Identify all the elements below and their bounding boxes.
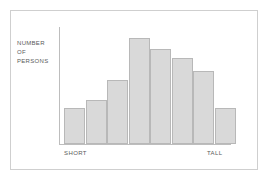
bar-5 bbox=[150, 49, 171, 144]
bar-6 bbox=[172, 58, 193, 144]
bar-2 bbox=[86, 100, 107, 144]
y-axis-label-line-2: OF bbox=[17, 48, 59, 57]
y-axis-label-line-1: NUMBER bbox=[17, 39, 59, 48]
y-axis-label: NUMBER OF PERSONS bbox=[17, 39, 59, 66]
figure-frame: NUMBER OF PERSONS SHORT TALL bbox=[10, 10, 258, 170]
plot-area: NUMBER OF PERSONS SHORT TALL bbox=[11, 11, 259, 171]
bar-7 bbox=[193, 71, 214, 144]
bar-8 bbox=[215, 108, 236, 144]
x-axis-tick-label-tall: TALL bbox=[207, 150, 223, 156]
bar-3 bbox=[107, 80, 128, 144]
y-axis-label-line-3: PERSONS bbox=[17, 57, 59, 66]
bar-4 bbox=[129, 38, 150, 144]
x-axis-line bbox=[59, 144, 231, 145]
x-axis-tick-label-short: SHORT bbox=[64, 150, 87, 156]
y-axis-line bbox=[59, 27, 60, 145]
bar-1 bbox=[64, 108, 85, 144]
histogram-screenshot: NUMBER OF PERSONS SHORT TALL bbox=[0, 0, 269, 180]
